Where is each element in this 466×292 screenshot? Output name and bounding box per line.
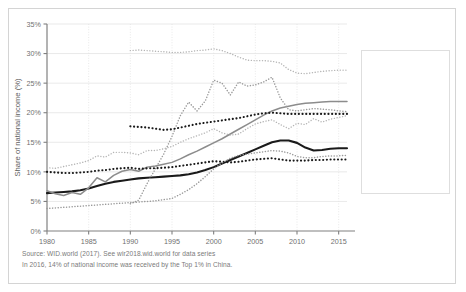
y-axis-tick-labels: 0%5%10%15%20%25%30%35% — [27, 20, 42, 236]
x-tick-2010: 2010 — [289, 237, 305, 246]
axis-lines — [44, 24, 356, 235]
x-tick-1985: 1985 — [81, 237, 97, 246]
x-tick-2015: 2015 — [331, 237, 347, 246]
series-line-europe — [47, 158, 347, 173]
y-tick-15: 15% — [27, 138, 42, 147]
x-tick-1980: 1980 — [39, 237, 55, 246]
y-tick-30: 30% — [27, 49, 42, 58]
y-tick-25: 25% — [27, 79, 42, 88]
series-line-russia — [130, 77, 347, 204]
y-tick-35: 35% — [27, 20, 42, 29]
y-axis-title: Share of national income (%) — [13, 78, 22, 176]
data-series-layer — [47, 49, 347, 209]
x-tick-1990: 1990 — [122, 237, 138, 246]
series-line-brazil — [47, 151, 347, 209]
legend-box — [361, 50, 450, 194]
y-tick-10: 10% — [27, 168, 42, 177]
x-tick-1995: 1995 — [164, 237, 180, 246]
series-line-middle-east — [130, 49, 347, 74]
series-line-china — [47, 141, 347, 194]
series-line-india — [47, 101, 347, 195]
y-tick-20: 20% — [27, 108, 42, 117]
y-axis-title-text: Share of national income (%) — [13, 78, 22, 176]
x-tick-2000: 2000 — [206, 237, 222, 246]
source-note-line1: Source: WID.world (2017). See wir2018.wi… — [22, 250, 215, 257]
y-tick-0: 0% — [31, 227, 42, 236]
x-tick-2005: 2005 — [247, 237, 263, 246]
y-tick-5: 5% — [31, 197, 42, 206]
grid-lines — [47, 24, 347, 231]
x-axis-tick-labels: 19801985199019952000200520102015 — [39, 237, 347, 246]
source-note-line2: In 2016, 14% of national income was rece… — [22, 261, 232, 268]
series-line-sub-saharan-africa — [130, 113, 347, 130]
